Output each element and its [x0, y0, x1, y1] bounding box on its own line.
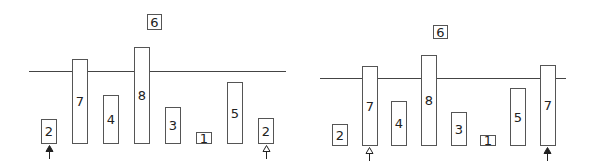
bar: 2	[41, 119, 57, 144]
bar: 8	[421, 55, 437, 146]
bar: 7	[362, 66, 378, 146]
pivot-line	[29, 71, 286, 72]
filled-arrow-up-icon	[45, 145, 54, 159]
bar: 1	[196, 132, 212, 144]
pivot-box: 6	[147, 14, 162, 30]
filled-arrow-up-icon	[543, 147, 552, 161]
bar: 4	[391, 101, 407, 146]
bar: 7	[540, 65, 556, 146]
bar: 3	[165, 107, 181, 144]
bar: 7	[72, 59, 88, 144]
hollow-arrow-up-icon	[365, 147, 374, 161]
bar: 1	[480, 135, 496, 146]
bar: 4	[103, 95, 119, 144]
pivot-line	[320, 78, 566, 79]
bar: 2	[258, 118, 274, 144]
bar: 5	[227, 82, 243, 144]
bar: 8	[134, 47, 150, 144]
pivot-box: 6	[433, 25, 448, 39]
bar: 3	[451, 112, 467, 146]
bar: 5	[510, 88, 526, 146]
hollow-arrow-up-icon	[262, 145, 271, 159]
bar: 2	[332, 124, 348, 146]
